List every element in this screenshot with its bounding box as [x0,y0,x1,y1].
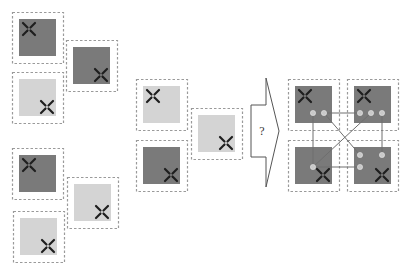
connection-dot [357,110,362,115]
tile-l2 [67,41,118,92]
connection-dot [310,110,315,115]
diagram-canvas: ? [0,0,412,273]
arrow-question-label: ? [259,124,264,138]
tile-l4 [13,149,64,200]
tile-l5 [68,178,119,229]
connection-dot [379,110,384,115]
connection-dot [310,164,315,169]
transform-arrow: ? [251,78,279,187]
arrow-shape [251,78,279,187]
tile-r4 [348,141,399,192]
tile-m2 [192,109,243,160]
connection-dot [321,110,326,115]
connection-dot [357,152,362,157]
tile-l3 [13,73,64,124]
right-tile-group [289,80,399,192]
connection-dot [368,110,373,115]
tile-l6 [14,212,65,263]
connection-dot [357,164,362,169]
middle-tile-group [137,80,243,192]
connection-dot [379,152,384,157]
tile-l1 [13,13,64,64]
left-tile-group [13,13,119,263]
tile-r2 [348,80,399,131]
tile-m1 [137,80,188,131]
tile-m3 [137,141,188,192]
